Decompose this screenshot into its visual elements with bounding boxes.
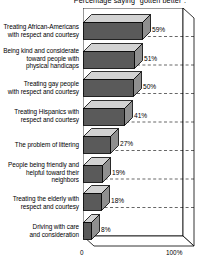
bar-3d-shape xyxy=(83,185,110,211)
bar-value-label: 51% xyxy=(144,55,157,62)
bar-value-label: 18% xyxy=(111,197,124,204)
bar xyxy=(83,214,99,239)
bar-3d-shape xyxy=(83,157,111,183)
bar-3d-shape xyxy=(83,100,133,126)
bar-3d-shape xyxy=(83,128,119,154)
bar-value-label: 41% xyxy=(134,112,147,119)
bar-value-label: 8% xyxy=(101,226,111,233)
bar xyxy=(83,14,150,39)
bar-3d-shape xyxy=(83,71,142,97)
bar xyxy=(83,100,132,125)
axis-tick-min: 0 xyxy=(80,249,84,256)
bar-value-label: 19% xyxy=(112,169,125,176)
bar xyxy=(83,185,109,210)
axis-tick-max: 100% xyxy=(166,249,182,256)
bar xyxy=(83,157,110,182)
bar-value-label: 27% xyxy=(120,140,133,147)
bar xyxy=(83,43,142,68)
bar xyxy=(83,128,118,153)
bars-layer: 59%51%50%41%27%19%18%8% xyxy=(0,0,202,259)
bar-value-label: 50% xyxy=(143,83,156,90)
bar xyxy=(83,71,141,96)
bar-chart: Percentage saying "gotten better". T xyxy=(0,0,202,259)
bar-3d-shape xyxy=(83,43,143,69)
bar-value-label: 59% xyxy=(152,26,165,33)
bar-3d-shape xyxy=(83,214,100,240)
bar-3d-shape xyxy=(83,14,151,40)
